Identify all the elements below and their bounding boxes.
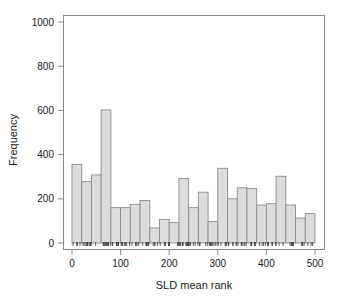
histogram-bar	[82, 182, 92, 243]
x-axis-tick-label: 500	[307, 258, 324, 269]
histogram-bar	[228, 199, 238, 243]
histogram-bar	[72, 165, 82, 243]
histogram-bar	[140, 201, 150, 243]
histogram-bar	[189, 208, 199, 243]
histogram-bar	[218, 168, 228, 243]
histogram-bar	[111, 208, 121, 243]
x-axis-label: SLD mean rank	[156, 279, 233, 291]
histogram-bar	[121, 208, 131, 243]
y-axis-tick-label: 200	[37, 193, 54, 204]
x-axis-tick-label: 100	[112, 258, 129, 269]
histogram-bar	[257, 205, 267, 243]
histogram-bar	[237, 188, 247, 243]
y-axis-tick-label: 600	[37, 105, 54, 116]
y-axis-label: Frequency	[7, 114, 19, 166]
histogram-bar	[266, 204, 276, 243]
histogram-figure: 02004006008001000 0100200300400500 SLD m…	[0, 0, 341, 300]
y-axis-tick-label: 1000	[32, 17, 55, 28]
y-axis-tick-label: 800	[37, 61, 54, 72]
y-axis-tick-label: 400	[37, 149, 54, 160]
histogram-bar	[179, 178, 189, 243]
x-axis-tick-label: 200	[161, 258, 178, 269]
histogram-bar	[276, 176, 286, 243]
x-axis-tick-label: 400	[258, 258, 275, 269]
y-axis-tick-label: 0	[48, 238, 54, 249]
x-axis-tick-label: 300	[209, 258, 226, 269]
histogram-bar	[286, 205, 296, 243]
histogram-canvas: 02004006008001000 0100200300400500 SLD m…	[0, 0, 341, 300]
histogram-bar	[198, 192, 208, 243]
x-axis-tick-label: 0	[69, 258, 75, 269]
histogram-bar	[296, 218, 306, 243]
histogram-bar	[305, 214, 315, 243]
histogram-bar	[130, 204, 140, 243]
histogram-bar	[159, 219, 169, 243]
histogram-bar	[101, 110, 111, 243]
histogram-bar	[150, 228, 160, 243]
histogram-bar	[208, 222, 218, 243]
histogram-bar	[247, 188, 257, 243]
histogram-bar	[91, 175, 101, 243]
histogram-bar	[169, 223, 179, 243]
